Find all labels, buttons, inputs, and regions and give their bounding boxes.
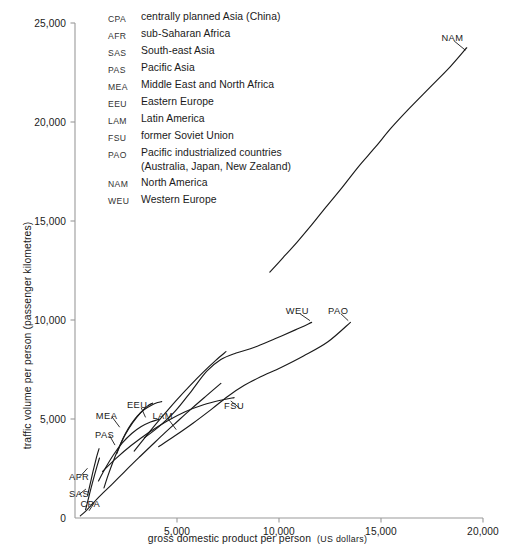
x-axis-title: gross domestic product per person (US do… (0, 533, 515, 544)
series-label-pas: PAS (95, 430, 114, 440)
series-label-fsu: FSU (224, 401, 244, 411)
legend-item-code: AFR (108, 27, 141, 43)
legend-item-name: Western Europe (141, 193, 217, 207)
series-label-mea: MEA (96, 411, 118, 421)
legend-item-code: NAM (108, 176, 141, 192)
legend: CPAcentrally planned Asia (China)AFRsub-… (108, 10, 408, 210)
legend-item-name: Middle East and North Africa (141, 78, 274, 92)
legend-item: PASPacific Asia (108, 61, 408, 77)
y-tick-label: 15,000 (0, 216, 66, 227)
legend-item-name: Latin America (141, 112, 205, 126)
legend-item-subname: (Australia, Japan, New Zealand) (141, 160, 291, 174)
legend-item: EEUEastern Europe (108, 95, 408, 111)
y-tick-label: 5,000 (0, 414, 66, 425)
x-axis-title-main: gross domestic product per person (148, 533, 311, 544)
legend-item-name: sub-Saharan Africa (141, 27, 230, 41)
legend-item-name: Eastern Europe (141, 95, 214, 109)
legend-item: FSUformer Soviet Union (108, 129, 408, 145)
legend-item: WEUWestern Europe (108, 193, 408, 209)
legend-item-code: CPA (108, 10, 141, 26)
series-label-sas: SAS (69, 489, 89, 499)
series-line-pao (159, 322, 351, 446)
series-label-cpa: CPA (80, 499, 100, 509)
y-tick-label: 0 (0, 513, 66, 524)
series-line-afr (88, 449, 99, 496)
legend-item-code: MEA (108, 78, 141, 94)
legend-item: SASSouth-east Asia (108, 44, 408, 60)
series-label-afr: AFR (69, 472, 89, 482)
legend-item-code: LAM (108, 112, 141, 128)
series-label-pao: PAO (328, 306, 348, 316)
legend-item-name: former Soviet Union (141, 129, 234, 143)
legend-item-code: EEU (108, 95, 141, 111)
series-label-lam: LAM (152, 411, 172, 421)
legend-item-name: Pacific Asia (141, 61, 195, 75)
legend-item-code: SAS (108, 44, 141, 60)
series-label-eeu: EEU (127, 400, 147, 410)
legend-item: NAMNorth America (108, 176, 408, 192)
legend-item-name: centrally planned Asia (China) (141, 10, 281, 24)
legend-item: LAMLatin America (108, 112, 408, 128)
legend-item: MEAMiddle East and North Africa (108, 78, 408, 94)
y-tick-label: 10,000 (0, 315, 66, 326)
series-label-weu: WEU (286, 306, 309, 316)
legend-item: PAOPacific industrialized countries(Aust… (108, 146, 408, 175)
series-line-cpa (80, 383, 221, 515)
y-tick-label: 25,000 (0, 18, 66, 29)
y-axis-title-text: traffic volume per person (passenger kil… (22, 222, 33, 450)
legend-item-name: North America (141, 176, 207, 190)
legend-item-code: FSU (108, 129, 141, 145)
legend-item: CPAcentrally planned Asia (China) (108, 10, 408, 26)
chart-figure: CPAcentrally planned Asia (China)AFRsub-… (0, 0, 515, 557)
y-axis-title: traffic volume per person (passenger kil… (22, 156, 33, 516)
y-tick-label: 20,000 (0, 117, 66, 128)
legend-item-name: South-east Asia (141, 44, 215, 58)
legend-item-code: PAO (108, 146, 141, 162)
series-label-nam: NAM (441, 33, 463, 43)
legend-item: AFRsub-Saharan Africa (108, 27, 408, 43)
x-axis-title-unit: (US dollars) (317, 534, 367, 544)
legend-item-code: WEU (108, 193, 141, 209)
legend-item-code: PAS (108, 61, 141, 77)
legend-item-name: Pacific industrialized countries(Austral… (141, 146, 291, 175)
